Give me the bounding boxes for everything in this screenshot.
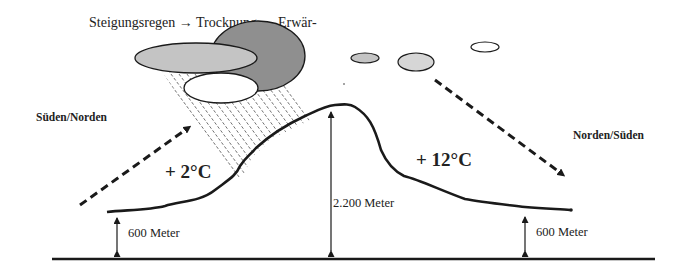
cloud-white [184,73,258,103]
right-height-label: 600 Meter [536,225,589,239]
peak-height-label: 2.200 Meter [333,196,395,210]
right-direction-label: Norden/Süden [573,129,645,141]
windward-temp-label: + 2°C [165,161,211,182]
left-direction-label: Süden/Norden [36,111,108,123]
left-height-label: 600 Meter [128,226,181,240]
cloud-small-3 [471,42,499,52]
speck [343,83,345,85]
cloud-small-1 [351,53,379,63]
cloud-light-large [135,43,257,73]
cloud-small-2 [398,53,434,71]
foehn-wind-diagram: Steigungsregen → Trocknung → Erwär- Süde… [0,0,685,274]
leeward-temp-label: + 12°C [416,149,472,170]
